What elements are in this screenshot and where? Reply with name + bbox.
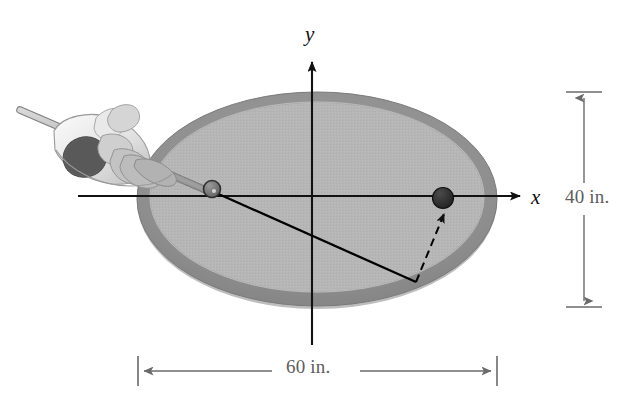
table-height-dimension-label: 40 in. — [565, 186, 609, 208]
x-axis-label: x — [531, 185, 540, 210]
figure-canvas: 40 in. 60 in. x y — [0, 0, 631, 413]
player-hand-and-arm — [54, 105, 176, 189]
table-width-dimension-label: 60 in. — [279, 356, 337, 378]
cue-ball — [204, 181, 221, 198]
y-axis-label: y — [305, 22, 314, 47]
cue-ball-marking — [212, 189, 216, 193]
target-ball — [433, 188, 454, 209]
